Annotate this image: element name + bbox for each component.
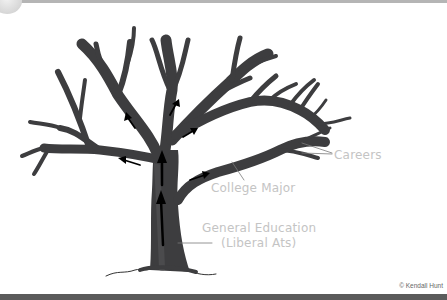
label-college-major: College Major bbox=[211, 181, 296, 195]
copyright-credit: © Kendall Hunt bbox=[399, 282, 443, 289]
branch-left-center bbox=[82, 44, 158, 155]
label-general-education: General Education bbox=[202, 221, 316, 235]
bottom-border bbox=[0, 294, 447, 300]
label-careers: Careers bbox=[334, 148, 382, 162]
label-liberal-arts: (Liberal Ats) bbox=[221, 236, 296, 250]
tree-graphic bbox=[22, 28, 350, 276]
